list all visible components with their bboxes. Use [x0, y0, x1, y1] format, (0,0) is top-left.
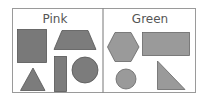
panel-label-green: Green: [132, 12, 168, 26]
sorting-diagram: Pink Green: [0, 0, 205, 101]
circle-shape: [72, 57, 98, 83]
circle-shape: [116, 69, 136, 89]
rectangle-shape: [55, 57, 67, 92]
rectangle-shape: [143, 33, 190, 56]
square-shape: [18, 30, 47, 63]
panel-label-pink: Pink: [43, 12, 68, 26]
